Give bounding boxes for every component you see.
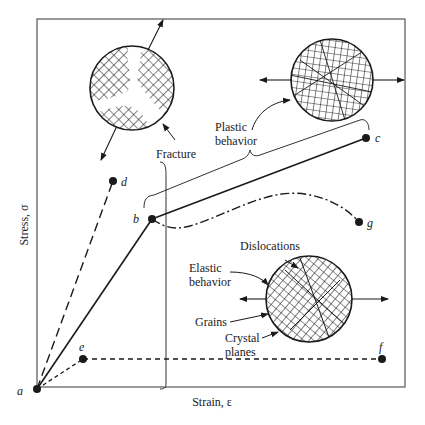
plastic-pointer (252, 100, 290, 130)
grains-label: Grains (195, 315, 227, 329)
point-label-e: e (79, 340, 85, 354)
path-a-e (37, 359, 83, 389)
point-e (79, 355, 87, 363)
elastic-label-line2: behavior (189, 275, 231, 289)
path-a-d (37, 181, 113, 389)
elastic-label-line1: Elastic (189, 261, 222, 275)
point-b (148, 215, 156, 223)
point-label-a: a (17, 384, 23, 398)
plastic-bracket (144, 120, 369, 208)
point-a (33, 385, 41, 393)
point-label-b: b (133, 212, 139, 226)
path-a-b (37, 219, 152, 389)
point-c (362, 134, 370, 142)
plastic-label-line1: Plastic (215, 120, 247, 134)
plastic-microstructure-inset (252, 39, 404, 130)
grains-pointer (230, 314, 268, 322)
point-f (378, 355, 386, 363)
stress-strain-diagram: Strain, ε Stress, σ a b c d e f g Fractu… (0, 0, 425, 425)
point-d (109, 177, 117, 185)
fracture-bracket (160, 162, 166, 389)
point-label-f: f (379, 340, 384, 354)
crystal-planes-label-line1: Crystal (225, 331, 260, 345)
arrow-down-icon (101, 128, 116, 160)
point-label-d: d (121, 175, 128, 189)
arrow-up-icon (148, 20, 163, 50)
x-axis-label: Strain, ε (192, 395, 232, 409)
plastic-label-line2: behavior (215, 134, 257, 148)
point-label-c: c (375, 131, 381, 145)
fracture-label: Fracture (156, 147, 196, 161)
path-b-g (152, 193, 359, 228)
crystal-planes-label-line2: planes (225, 345, 256, 359)
crystal-planes-pointer (262, 332, 278, 338)
y-axis-label: Stress, σ (17, 204, 31, 246)
point-g (355, 218, 363, 226)
fracture-microstructure-inset (86, 20, 178, 160)
elastic-microstructure-inset (230, 256, 388, 342)
elastic-pointer (230, 272, 268, 285)
elastic-bracket-point (166, 210, 173, 384)
point-label-g: g (367, 216, 373, 230)
fracture-pointer (163, 124, 175, 140)
dislocations-label: Dislocations (240, 239, 300, 253)
